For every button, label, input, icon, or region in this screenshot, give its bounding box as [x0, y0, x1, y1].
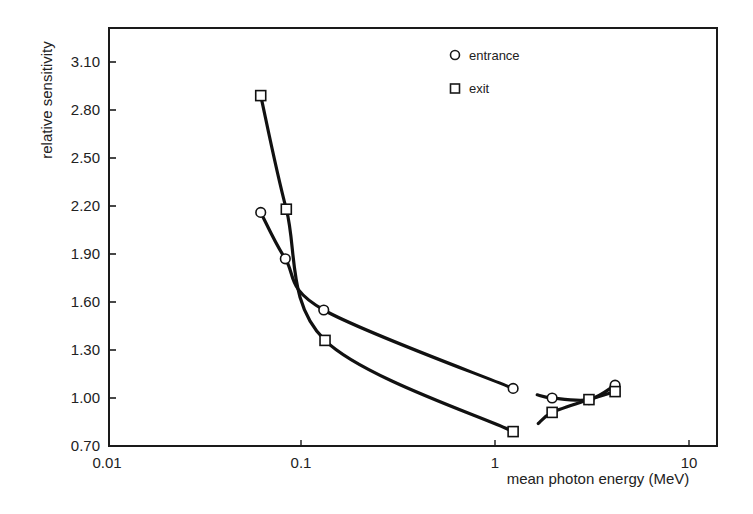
exit-point-square-icon — [281, 204, 291, 214]
x-tick-label: 10 — [681, 454, 698, 471]
entrance-point-circle-icon — [508, 384, 518, 394]
exit-point-square-icon — [547, 407, 557, 417]
y-tick-label: 2.50 — [71, 149, 100, 166]
exit-curve — [261, 96, 513, 432]
y-axis-title: relative sensitivity — [38, 41, 55, 159]
x-axis-ticks: 0.010.1110 — [92, 440, 697, 471]
exit-point-square-icon — [610, 387, 620, 397]
entrance-curve — [261, 212, 513, 388]
y-tick-label: 3.10 — [71, 53, 100, 70]
x-tick-label: 0.1 — [291, 454, 312, 471]
legend-label-exit: exit — [469, 81, 490, 96]
entrance-point-circle-icon — [547, 393, 557, 403]
sensitivity-chart: 0.701.001.301.601.902.202.502.803.10 0.0… — [0, 0, 753, 514]
entrance-point-circle-icon — [256, 208, 266, 218]
y-tick-label: 1.00 — [71, 389, 100, 406]
data-curves — [261, 96, 615, 432]
y-tick-label: 1.60 — [71, 293, 100, 310]
entrance-point-circle-icon — [281, 254, 291, 264]
exit-point-square-icon — [584, 395, 594, 405]
y-tick-label: 0.70 — [71, 437, 100, 454]
legend-label-entrance: entrance — [469, 48, 520, 63]
y-tick-label: 1.90 — [71, 245, 100, 262]
legend: entrance exit — [451, 48, 520, 96]
y-tick-label: 1.30 — [71, 341, 100, 358]
data-markers — [256, 91, 620, 437]
exit-point-square-icon — [256, 91, 266, 101]
exit-point-square-icon — [320, 335, 330, 345]
x-axis-title: mean photon energy (MeV) — [507, 470, 690, 487]
entrance-point-circle-icon — [319, 305, 329, 315]
y-tick-label: 2.80 — [71, 101, 100, 118]
plot-frame — [109, 28, 717, 446]
x-tick-label: 0.01 — [92, 454, 121, 471]
legend-square-icon — [451, 84, 460, 93]
x-tick-label: 1 — [491, 454, 499, 471]
exit-point-square-icon — [508, 427, 518, 437]
y-tick-label: 2.20 — [71, 197, 100, 214]
legend-circle-icon — [451, 51, 460, 60]
